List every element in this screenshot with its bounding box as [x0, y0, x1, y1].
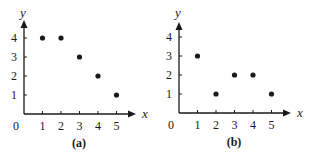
- y-tick-label: 4: [11, 31, 17, 45]
- data-point: [95, 73, 100, 78]
- panel-b: 1 2 3 4 5 1 2 3 4 0 x y (b): [166, 5, 303, 149]
- data-point: [269, 91, 274, 96]
- y-tick-label: 1: [11, 88, 17, 102]
- y-tick-label: 1: [166, 87, 172, 101]
- origin-label: 0: [168, 118, 174, 132]
- x-tick-label: 5: [269, 118, 275, 132]
- y-axis-label: y: [18, 5, 26, 20]
- y-tick-label: 2: [166, 68, 172, 82]
- y-tick-label: 4: [166, 30, 172, 44]
- y-axis: [176, 22, 183, 113]
- figure: 1 2 3 4 5 1 2 3 4 0 x y (a): [0, 0, 314, 156]
- panel-caption: (a): [72, 136, 86, 150]
- x-axis-arrow-icon: [283, 110, 291, 117]
- x-axis-label: x: [296, 105, 303, 120]
- y-axis-arrow-icon: [21, 20, 28, 28]
- panel-caption: (b): [227, 135, 242, 149]
- y-tick-labels: 1 2 3 4: [166, 30, 172, 101]
- data-points: [40, 35, 119, 97]
- y-axis-label: y: [173, 5, 181, 20]
- x-tick-label: 2: [58, 119, 64, 133]
- x-tick-label: 1: [195, 118, 201, 132]
- x-tick-labels: 1 2 3 4 5: [195, 118, 275, 132]
- data-point: [40, 35, 45, 40]
- data-point: [58, 35, 63, 40]
- data-point: [213, 91, 218, 96]
- x-tick-label: 4: [250, 118, 256, 132]
- y-tick-label: 3: [11, 50, 17, 64]
- data-point: [77, 54, 82, 59]
- y-axis-arrow-icon: [176, 22, 183, 30]
- data-point: [232, 72, 237, 77]
- data-point: [250, 72, 255, 77]
- data-points: [195, 53, 274, 96]
- x-tick-label: 4: [95, 119, 101, 133]
- data-point: [114, 92, 119, 97]
- data-point: [195, 53, 200, 58]
- x-tick-label: 1: [40, 119, 46, 133]
- x-axis-label: x: [141, 106, 148, 121]
- x-axis-arrow-icon: [128, 111, 136, 118]
- y-tick-label: 2: [11, 69, 17, 83]
- x-tick-label: 2: [213, 118, 219, 132]
- origin-label: 0: [13, 119, 19, 133]
- panel-a: 1 2 3 4 5 1 2 3 4 0 x y (a): [11, 5, 148, 150]
- x-tick-labels: 1 2 3 4 5: [40, 119, 120, 133]
- y-axis: [21, 20, 28, 114]
- x-tick-label: 3: [232, 118, 238, 132]
- x-tick-label: 3: [77, 119, 83, 133]
- y-tick-labels: 1 2 3 4: [11, 31, 17, 102]
- y-tick-label: 3: [166, 49, 172, 63]
- x-tick-label: 5: [114, 119, 120, 133]
